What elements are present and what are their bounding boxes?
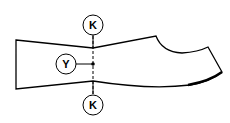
blade-edge-highlight [188, 72, 222, 85]
label-k-bottom-text: K [89, 99, 97, 111]
blade-outline [16, 36, 222, 89]
label-k-bottom: K [83, 95, 103, 115]
label-k-top: K [83, 15, 103, 35]
label-k-top-text: K [89, 19, 97, 31]
blade-diagram: K Y K [0, 0, 230, 123]
label-y-text: Y [62, 58, 70, 70]
label-y: Y [56, 54, 76, 74]
